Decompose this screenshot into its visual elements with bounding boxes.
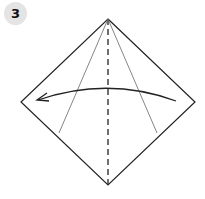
fold-direction-arrow-icon (37, 88, 176, 101)
left-crease-line (59, 19, 108, 133)
origami-diagram (0, 0, 205, 199)
right-crease-line (108, 19, 157, 133)
